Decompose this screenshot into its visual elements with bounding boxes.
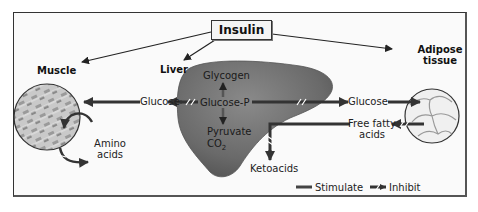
legend-inhibit-icon [370, 184, 386, 190]
label-ketoacids: Ketoacids [250, 163, 298, 174]
label-muscle: Muscle [37, 65, 76, 76]
label-glucose-left: Glucose [140, 96, 180, 107]
legend-stimulate-label: Stimulate [315, 182, 363, 193]
label-ffa-line1: Free fatty [346, 118, 398, 129]
label-co2: CO2 [207, 138, 226, 154]
insulin-title-box: Insulin [211, 20, 272, 40]
label-adipose: Adipose tissue [415, 44, 465, 66]
legend-inhibit-label: Inhibit [389, 182, 420, 193]
insulin-diagram: Insulin Muscle Liver Adipose tissue Glyc… [0, 0, 478, 212]
label-free-fatty-acids: Free fatty acids [346, 118, 398, 140]
label-amino-line2: acids [90, 149, 130, 160]
label-liver: Liver [160, 64, 188, 75]
liver-organ [177, 61, 332, 177]
label-amino-line1: Amino [90, 138, 130, 149]
label-amino-acids: Amino acids [90, 138, 130, 160]
label-glycogen: Glycogen [203, 70, 250, 81]
adipose-tissue-image [405, 89, 459, 143]
label-glucose-right: Glucose [348, 96, 388, 107]
label-adipose-line1: Adipose [415, 44, 465, 55]
label-pyruvate: Pyruvate [207, 126, 252, 137]
label-co2-text: CO [207, 138, 222, 149]
label-glucose-p: Glucose-P [200, 97, 249, 108]
label-ffa-line2: acids [346, 129, 398, 140]
label-adipose-line2: tissue [415, 55, 465, 66]
label-co2-sub: 2 [222, 144, 226, 152]
